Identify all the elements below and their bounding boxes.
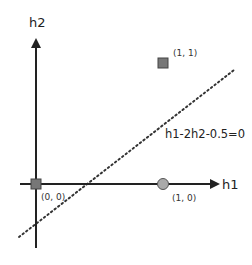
point-1-1-marker [158, 58, 168, 68]
point-1-0-label: (1, 0) [172, 194, 196, 203]
h1-axis-label: h1 [222, 178, 239, 191]
decision-boundary-equation: h1-2h2-0.5=0 [165, 129, 245, 141]
h2-axis-label: h2 [29, 16, 46, 29]
decision-boundary-line [19, 70, 234, 237]
point-0-0-marker [31, 179, 41, 189]
point-0-0-label: (0, 0) [41, 193, 65, 202]
point-1-1-label: (1, 1) [173, 49, 197, 58]
point-1-0-marker [158, 179, 169, 190]
